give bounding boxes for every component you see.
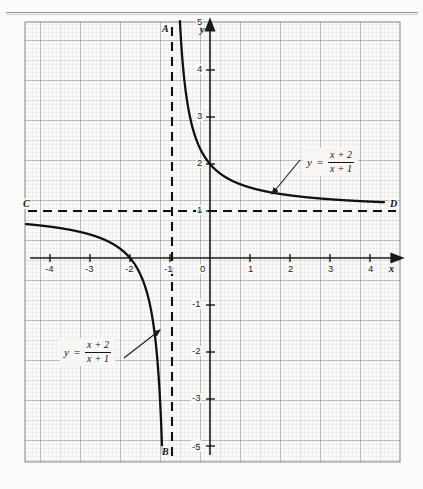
y-tick-label-3: 3 [196,111,203,121]
asymptote-label-c: C [22,198,31,209]
equation-label-right-branch: y = x + 2 x + 1 [303,148,358,176]
equation-fraction-left: x + 2 x + 1 [85,340,111,364]
equation-fraction-right: x + 2 x + 1 [328,150,354,174]
asymptote-label-a: A [161,23,170,34]
x-axis-name: x [389,263,394,274]
equation-numerator-right: x + 2 [328,150,354,162]
equation-lhs-left: y [64,346,69,358]
equation-lhs-right: y [307,156,312,168]
equation-label-left-branch: y = x + 2 x + 1 [60,338,115,366]
equation-equals-right: = [317,156,323,168]
x-tick-label--1: -1 [163,264,173,274]
y-tick-label-2: 2 [196,158,203,168]
x-tick-label--2: -2 [124,264,134,274]
graph-svg [0,0,423,489]
x-tick-label--3: -3 [84,264,94,274]
y-tick-label--5: -5 [191,442,201,452]
equation-equals-left: = [74,346,80,358]
x-tick-label--4: -4 [44,264,54,274]
graph-figure [0,0,423,489]
y-tick-label--1: -1 [191,299,201,309]
asymptote-label-b: B [161,446,170,457]
x-tick-label-1: 1 [247,264,254,274]
x-tick-label-2: 2 [287,264,294,274]
y-tick-label-4: 4 [196,64,203,74]
y-tick-label--2: -2 [191,346,201,356]
x-tick-label-4: 4 [367,264,374,274]
page-canvas: -4 -3 -2 -1 0 1 2 3 4 1 2 3 4 5 -1 -2 -3… [0,0,423,489]
y-tick-label--3: -3 [191,393,201,403]
equation-denominator-left: x + 1 [85,352,111,365]
x-tick-label-0: 0 [199,264,206,274]
y-axis-name: y [200,24,204,35]
x-tick-label-3: 3 [327,264,334,274]
equation-numerator-left: x + 2 [85,340,111,352]
asymptote-label-d: D [389,198,398,209]
y-tick-label-1: 1 [196,205,203,215]
equation-denominator-right: x + 1 [328,162,354,175]
